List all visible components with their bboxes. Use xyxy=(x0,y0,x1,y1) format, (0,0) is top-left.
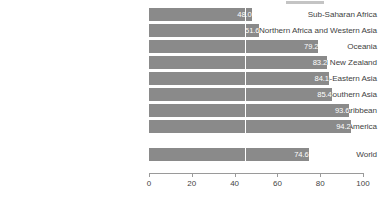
x-axis-tick xyxy=(277,173,278,177)
x-axis-tick xyxy=(192,173,193,177)
x-axis-tick xyxy=(235,173,236,177)
x-axis-tick-label: 0 xyxy=(134,178,164,189)
x-axis-tick xyxy=(363,173,364,177)
bar-track: 51.6 xyxy=(149,24,363,37)
x-axis-line xyxy=(149,173,363,174)
bar-track: 83.2 xyxy=(149,56,363,69)
x-axis-tick-label: 80 xyxy=(305,178,335,189)
bar-track: 79.2 xyxy=(149,40,363,53)
bar-track: 74.6 xyxy=(149,148,363,161)
bar-value-label: 79.2 xyxy=(149,40,321,53)
bar-row: Australia and New Zealand83.2 xyxy=(0,56,377,69)
bar-track: 94.2 xyxy=(149,120,363,133)
bar-row: Northern Africa and Western Asia51.6 xyxy=(0,24,377,37)
bar-row: Eastern and South-Eastern Asia84.1 xyxy=(0,72,377,85)
reference-gridline xyxy=(245,6,246,161)
bar-value-label: 93.6 xyxy=(149,104,352,117)
bar-row: Central and Southern Asia85.4 xyxy=(0,88,377,101)
bar-row: Sub-Saharan Africa48.0 xyxy=(0,8,377,21)
bar-track: 93.6 xyxy=(149,104,363,117)
x-axis-tick-label: 100 xyxy=(348,178,378,189)
bar-row: Oceania79.2 xyxy=(0,40,377,53)
bar-value-label: 74.6 xyxy=(149,148,312,161)
bar-value-label: 94.2 xyxy=(149,120,354,133)
bar-value-label: 84.1 xyxy=(149,72,332,85)
bar-row: Latin America and the Caribbean93.6 xyxy=(0,104,377,117)
bar-track: 84.1 xyxy=(149,72,363,85)
bar-row: Europe and Northern America94.2 xyxy=(0,120,377,133)
x-axis-tick-label: 20 xyxy=(177,178,207,189)
bar-track: 48.0 xyxy=(149,8,363,21)
bar-row: World74.6 xyxy=(0,148,377,161)
x-axis-tick-label: 60 xyxy=(262,178,292,189)
x-axis-tick xyxy=(149,173,150,177)
bar-track: 85.4 xyxy=(149,88,363,101)
bar-value-label: 85.4 xyxy=(149,88,335,101)
x-axis-tick-label: 40 xyxy=(220,178,250,189)
bar-value-label: 48.0 xyxy=(149,8,255,21)
x-axis-tick xyxy=(320,173,321,177)
bar-value-label: 83.2 xyxy=(149,56,330,69)
